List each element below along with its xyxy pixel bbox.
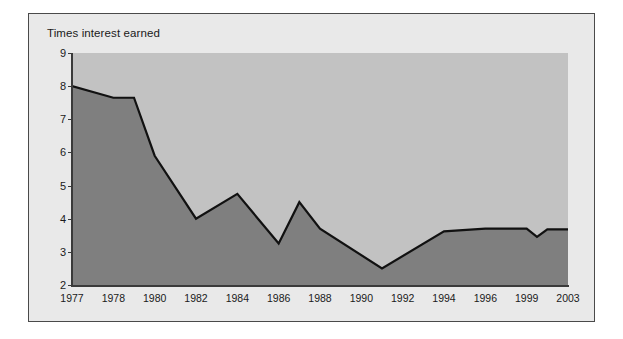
area-series-svg <box>72 53 568 285</box>
chart-title: Times interest earned <box>47 27 160 39</box>
chart-figure: Times interest earned 23456789 197719781… <box>0 0 623 339</box>
x-axis-line <box>71 285 569 287</box>
plot-area <box>72 53 568 285</box>
area-fill-shape <box>72 86 568 285</box>
y-axis-line <box>71 53 73 286</box>
